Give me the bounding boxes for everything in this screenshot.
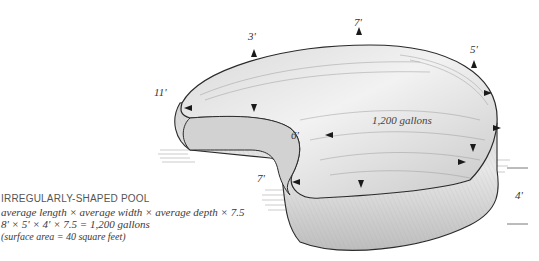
dimension-label-left: 11' xyxy=(154,86,167,98)
volume-label: 1,200 gallons xyxy=(372,114,432,126)
dimension-label-lower-left: 7' xyxy=(257,172,265,184)
dimension-label-inner-notch: 6' xyxy=(291,129,299,141)
dimension-label-top-center: 7' xyxy=(354,16,362,28)
caption-note: (surface area = 40 square feet) xyxy=(1,231,244,244)
dimension-label-top-left: 3' xyxy=(248,30,256,42)
caption-formula: average length × average width × average… xyxy=(1,206,244,219)
caption-calculation: 8' × 5' × 4' × 7.5 = 1,200 gallons xyxy=(1,218,244,231)
caption-title: IRREGULARLY-SHAPED POOL xyxy=(1,193,244,206)
dimension-label-depth: 4' xyxy=(515,189,523,201)
dimension-label-top-right: 5' xyxy=(470,43,478,55)
caption: IRREGULARLY-SHAPED POOL average length ×… xyxy=(1,193,244,243)
